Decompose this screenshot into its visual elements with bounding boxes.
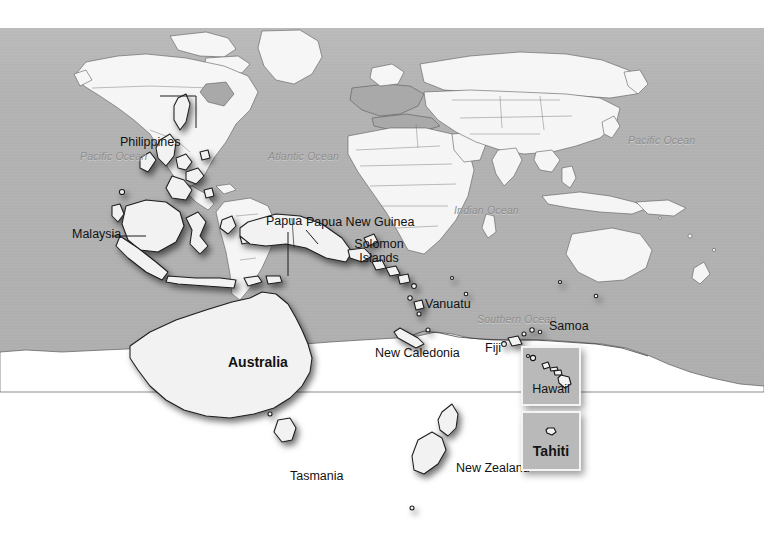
- fiji-dot-2: [522, 332, 526, 336]
- java: [166, 276, 236, 288]
- pacific-dot: [558, 280, 561, 283]
- tasmania-label: Tasmania: [290, 470, 344, 483]
- small-island: [119, 189, 124, 194]
- solomon-islands-line1: Solomon: [348, 238, 410, 251]
- pacific-overlay-map: [0, 0, 764, 543]
- malaysia-label: Malaysia: [72, 228, 121, 241]
- tahiti-inset-caption: Tahiti: [523, 443, 579, 459]
- kauai: [530, 355, 535, 360]
- southern-ocean-label: Southern Ocean: [477, 313, 556, 325]
- nz-south-island: [412, 432, 446, 474]
- pacific-dot: [594, 294, 598, 298]
- ph-small-1: [200, 150, 210, 160]
- australia-label: Australia: [228, 356, 288, 369]
- pacific-ocean-east-label: Pacific Ocean: [628, 134, 695, 146]
- vanuatu-dot-2: [417, 312, 421, 316]
- au-dot: [268, 412, 272, 416]
- solomon-islands-line2: Islands: [348, 252, 410, 265]
- halmahera: [220, 216, 236, 234]
- samoa-dot-2: [538, 330, 542, 334]
- fiji-isles: [508, 336, 522, 346]
- pacific-dot: [451, 277, 454, 280]
- visayas-1: [176, 154, 192, 170]
- pacific-dot: [464, 292, 468, 296]
- niihau: [527, 355, 530, 358]
- papua-new-guinea-label: Papua New Guinea: [306, 216, 414, 229]
- map-canvas: Pacific Ocean Atlantic Ocean Indian Ocea…: [0, 0, 764, 543]
- lesser-sunda-2: [266, 276, 282, 284]
- vanuatu-label: Vanuatu: [425, 298, 471, 311]
- solomon-dot: [412, 284, 417, 289]
- tasmania-overlay: [274, 418, 296, 442]
- hawaii-inset-box[interactable]: Hawaii: [521, 346, 581, 406]
- samoa-dot: [530, 328, 534, 332]
- nc-dot: [426, 328, 430, 332]
- solomon-3: [398, 274, 410, 284]
- vanuatu-isles: [414, 300, 424, 310]
- vanuatu-dot: [408, 296, 412, 300]
- ph-small-2: [204, 188, 214, 198]
- tahiti-island: [546, 428, 556, 435]
- visayas-2: [186, 168, 204, 184]
- fiji-label: Fiji: [485, 342, 501, 355]
- philippines-label: Philippines: [120, 136, 180, 149]
- samoa-label: Samoa: [549, 320, 589, 333]
- fiji-dot: [502, 342, 507, 347]
- malay-peninsula: [112, 204, 124, 222]
- tahiti-inset-box[interactable]: Tahiti: [521, 411, 581, 471]
- sulawesi: [186, 212, 208, 254]
- maui: [554, 370, 562, 375]
- hawaii-inset-caption: Hawaii: [523, 382, 579, 396]
- new-zealand-label: New Zealand: [456, 462, 530, 475]
- nz-north-island: [438, 404, 458, 436]
- atlantic-ocean-label: Atlantic Ocean: [268, 150, 339, 162]
- lesser-sunda-1: [244, 276, 262, 286]
- nz-dot: [410, 506, 414, 510]
- indian-ocean-label: Indian Ocean: [454, 204, 519, 216]
- new-caledonia-label: New Caledonia: [375, 347, 460, 360]
- oahu: [542, 362, 550, 369]
- tahiti-inset-map: [523, 413, 579, 469]
- philippines-overlay: [174, 94, 190, 130]
- pacific-ocean-west-label: Pacific Ocean: [80, 150, 147, 162]
- new-caledonia-isle: [394, 328, 424, 348]
- papua-label: Papua: [266, 215, 302, 228]
- solomon-2: [386, 266, 400, 276]
